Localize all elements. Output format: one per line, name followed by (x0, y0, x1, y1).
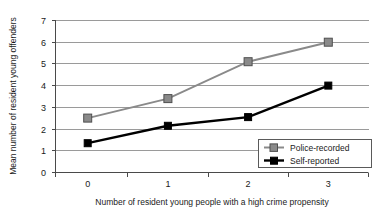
series-police-recorded-line (88, 42, 329, 118)
x-axis-title: Number of resident young people with a h… (95, 197, 329, 207)
series-self-reported (84, 82, 332, 147)
data-point-police-2 (244, 58, 252, 66)
x-tick-label-2: 2 (246, 179, 251, 189)
series-police-recorded (84, 38, 333, 122)
y-tick-label-0: 0 (41, 168, 46, 178)
y-tick-label-6: 6 (41, 38, 46, 48)
gridlines (56, 21, 369, 151)
y-tick-label-3: 3 (41, 103, 46, 113)
y-tick-label-5: 5 (41, 59, 46, 69)
y-tick-marks (52, 21, 56, 173)
y-tick-label-4: 4 (41, 81, 46, 91)
x-tick-labels: 0 1 2 3 (85, 179, 331, 189)
x-tick-label-1: 1 (165, 179, 170, 189)
chart-canvas: 7 6 5 4 3 2 1 0 0 1 2 3 Number of reside… (0, 0, 383, 212)
data-point-police-0 (84, 114, 92, 122)
legend-swatch-marker-police (270, 144, 278, 152)
y-tick-label-2: 2 (41, 125, 46, 135)
data-point-self-3 (325, 82, 332, 89)
legend-label-self-reported: Self-reported (290, 156, 339, 166)
series-self-reported-line (88, 86, 329, 144)
data-point-self-2 (245, 114, 252, 121)
y-tick-label-1: 1 (41, 146, 46, 156)
legend-swatch-marker-self (271, 157, 278, 164)
data-point-police-1 (164, 95, 172, 103)
y-tick-labels: 7 6 5 4 3 2 1 0 (41, 16, 46, 178)
y-axis-title: Mean number of resident young offenders (8, 17, 18, 175)
data-point-self-1 (164, 122, 171, 129)
x-tick-label-3: 3 (326, 179, 331, 189)
x-tick-label-0: 0 (85, 179, 90, 189)
y-tick-label-7: 7 (41, 16, 46, 26)
legend-label-police-recorded: Police-recorded (290, 143, 350, 153)
legend-item-self-reported[interactable]: Self-reported (264, 156, 339, 166)
x-tick-marks (56, 173, 369, 177)
legend: Police-recorded Self-reported (259, 140, 372, 168)
legend-item-police-recorded[interactable]: Police-recorded (264, 143, 350, 153)
line-chart: 7 6 5 4 3 2 1 0 0 1 2 3 Number of reside… (0, 0, 383, 212)
data-point-self-0 (84, 140, 91, 147)
data-point-police-3 (324, 38, 332, 46)
